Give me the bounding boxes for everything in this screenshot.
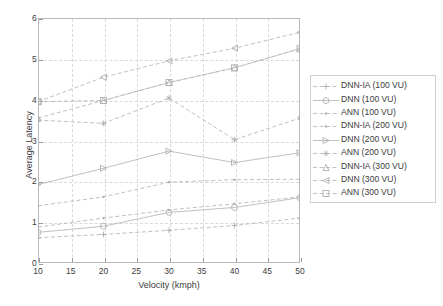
legend-marker-icon [311, 173, 341, 186]
chart-legend: DNN-IA (100 VU)DNN (100 VU)ANN (100 VU)D… [310, 75, 436, 203]
x-axis-tick [170, 258, 171, 262]
legend-marker-icon [311, 106, 341, 119]
gridline-horizontal [39, 142, 299, 143]
legend-marker-icon [311, 79, 341, 92]
legend-marker-icon [311, 186, 341, 199]
y-axis-tick-label: 2 [32, 176, 37, 186]
gridline-vertical [170, 19, 171, 262]
x-axis-tick-label: 25 [132, 266, 141, 276]
gridline-vertical [105, 19, 106, 262]
x-axis-tick-label: 30 [164, 266, 173, 276]
y-axis-tick [39, 223, 43, 224]
gridline-horizontal [39, 182, 299, 183]
x-axis-title: Velocity (kmph) [38, 280, 300, 290]
y-axis-tick [39, 182, 43, 183]
legend-item[interactable]: DNN (200 VU) [311, 133, 435, 146]
legend-marker-icon [311, 93, 341, 106]
x-axis-tick [268, 258, 269, 262]
y-axis-tick-label: 3 [32, 136, 37, 146]
legend-label: DNN (100 VU) [341, 93, 396, 106]
y-axis-tick [39, 264, 43, 265]
y-axis-tick [39, 142, 43, 143]
x-axis-tick-label: 15 [66, 266, 75, 276]
gridline-horizontal [39, 60, 299, 61]
legend-item[interactable]: DNN-IA (100 VU) [311, 79, 435, 92]
legend-label: DNN-IA (300 VU) [341, 160, 407, 173]
legend-marker-icon [311, 160, 341, 173]
legend-item[interactable]: ANN (200 VU) [311, 146, 435, 159]
x-axis-tick-label: 45 [263, 266, 272, 276]
legend-marker-icon [311, 133, 341, 146]
y-axis-tick [39, 19, 43, 20]
chart-figure: Velocity (kmph) Average Latency DNN-IA (… [0, 0, 443, 306]
plot-area [38, 18, 300, 263]
x-axis-tick [203, 258, 204, 262]
legend-label: DNN-IA (100 VU) [341, 79, 407, 92]
legend-item[interactable]: DNN-IA (200 VU) [311, 119, 435, 132]
x-axis-tick [39, 258, 40, 262]
x-axis-tick [301, 258, 302, 262]
legend-marker-icon [311, 119, 341, 132]
x-axis-tick-label: 50 [295, 266, 304, 276]
gridline-vertical [72, 19, 73, 262]
x-axis-tick [72, 258, 73, 262]
gridline-vertical [203, 19, 204, 262]
legend-label: ANN (300 VU) [341, 186, 396, 199]
y-axis-tick [39, 60, 43, 61]
gridline-vertical [236, 19, 237, 262]
y-axis-tick-label: 1 [32, 217, 37, 227]
x-axis-tick-label: 35 [197, 266, 206, 276]
y-axis-tick-label: 0 [32, 258, 37, 268]
legend-label: DNN-IA (200 VU) [341, 119, 407, 132]
legend-label: DNN (200 VU) [341, 133, 396, 146]
y-axis-tick-label: 6 [32, 13, 37, 23]
x-axis-tick-label: 20 [99, 266, 108, 276]
x-axis-tick [105, 258, 106, 262]
legend-item[interactable]: ANN (300 VU) [311, 186, 435, 199]
legend-item[interactable]: ANN (100 VU) [311, 106, 435, 119]
y-axis-tick [39, 101, 43, 102]
legend-item[interactable]: DNN-IA (300 VU) [311, 159, 435, 172]
legend-label: DNN (300 VU) [341, 173, 396, 186]
y-axis-tick-label: 4 [32, 95, 37, 105]
x-axis-tick [137, 258, 138, 262]
y-axis-tick-label: 5 [32, 54, 37, 64]
legend-item[interactable]: DNN (100 VU) [311, 92, 435, 105]
gridline-vertical [137, 19, 138, 262]
gridline-vertical [268, 19, 269, 262]
legend-marker-icon [311, 146, 341, 159]
x-axis-tick [236, 258, 237, 262]
legend-label: ANN (200 VU) [341, 146, 396, 159]
gridline-horizontal [39, 223, 299, 224]
gridline-horizontal [39, 101, 299, 102]
legend-label: ANN (100 VU) [341, 106, 396, 119]
x-axis-tick-label: 40 [230, 266, 239, 276]
legend-item[interactable]: DNN (300 VU) [311, 173, 435, 186]
